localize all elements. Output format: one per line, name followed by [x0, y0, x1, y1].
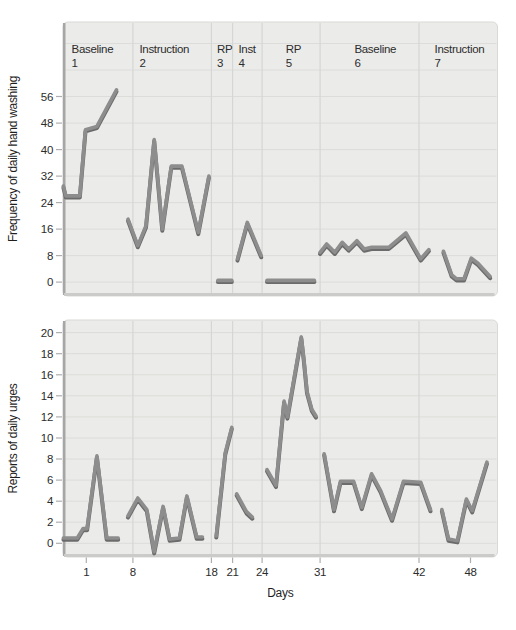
- x-axis-title: Days: [267, 586, 293, 600]
- y-axis-title: Frequency of daily hand washing: [6, 76, 20, 242]
- y-tick-label: 8: [47, 250, 53, 262]
- phase-name-label: Baseline: [72, 43, 114, 55]
- y-tick-label: 40: [41, 144, 53, 156]
- x-tick-label: 42: [413, 566, 425, 578]
- y-tick-label: 32: [41, 170, 53, 182]
- y-tick-label: 2: [47, 516, 53, 528]
- phase-number-label: 5: [286, 57, 292, 69]
- phase-name-label: Baseline: [354, 43, 396, 55]
- x-tick-label: 48: [464, 566, 476, 578]
- x-tick-label: 8: [130, 566, 136, 578]
- plot-area: [63, 22, 498, 296]
- x-tick-label: 18: [205, 566, 217, 578]
- figure: 08162432404856Frequency of daily hand wa…: [0, 0, 516, 630]
- phase-number-label: 1: [72, 57, 78, 69]
- y-tick-label: 18: [41, 348, 53, 360]
- x-tick-label: 21: [226, 566, 238, 578]
- series-rp-3: [218, 280, 232, 282]
- phase-number-label: 4: [238, 57, 245, 69]
- y-tick-label: 20: [41, 327, 53, 339]
- y-tick-label: 4: [47, 495, 54, 507]
- phase-number-label: 6: [354, 57, 360, 69]
- x-tick-label: 1: [83, 566, 89, 578]
- y-tick-label: 14: [41, 390, 54, 402]
- phase-name-label: Instruction: [139, 43, 189, 55]
- y-tick-label: 6: [47, 474, 53, 486]
- x-tick-label: 31: [314, 566, 326, 578]
- y-tick-label: 8: [47, 453, 53, 465]
- y-tick-label: 48: [41, 117, 53, 129]
- y-tick-label: 0: [47, 537, 53, 549]
- y-tick-label: 10: [41, 432, 53, 444]
- phase-name-label: RP: [286, 43, 302, 55]
- urges-chart: 02468101214161820Reports of daily urges: [6, 320, 498, 557]
- series-rp-5: [267, 280, 314, 282]
- y-tick-label: 16: [41, 369, 53, 381]
- y-tick-label: 12: [41, 411, 53, 423]
- chart-canvas: 08162432404856Frequency of daily hand wa…: [0, 0, 516, 630]
- y-tick-label: 0: [47, 276, 53, 288]
- phase-number-label: 2: [139, 57, 145, 69]
- hand-washing-chart: 08162432404856Frequency of daily hand wa…: [6, 22, 498, 296]
- phase-name-label: Inst: [238, 43, 256, 55]
- phase-name-label: RP: [217, 43, 233, 55]
- y-tick-label: 56: [41, 91, 53, 103]
- y-tick-label: 24: [41, 197, 54, 209]
- y-axis-title: Reports of daily urges: [6, 383, 20, 493]
- x-tick-label: 24: [256, 566, 269, 578]
- y-tick-label: 16: [41, 223, 53, 235]
- phase-name-label: Instruction: [435, 43, 485, 55]
- phase-number-label: 3: [217, 57, 223, 69]
- phase-number-label: 7: [435, 57, 441, 69]
